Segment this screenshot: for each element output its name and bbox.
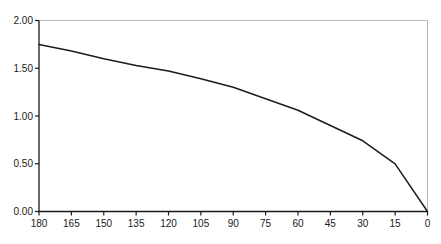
x-tick-label: 60	[292, 218, 304, 229]
x-tick-label: 45	[325, 218, 337, 229]
x-tick-label: 120	[160, 218, 177, 229]
line-chart: 0.000.501.001.502.0018016515013512010590…	[0, 0, 441, 244]
x-tick-label: 30	[357, 218, 369, 229]
x-tick-label: 15	[390, 218, 402, 229]
x-tick-label: 90	[228, 218, 240, 229]
series-line	[39, 44, 428, 211]
y-tick-label: 1.50	[14, 63, 34, 74]
y-tick-label: 0.00	[14, 206, 34, 217]
y-tick-label: 1.00	[14, 111, 34, 122]
x-tick-label: 135	[128, 218, 145, 229]
y-tick-label: 2.00	[14, 15, 34, 26]
x-tick-label: 0	[425, 218, 431, 229]
x-tick-label: 75	[260, 218, 272, 229]
x-tick-label: 105	[193, 218, 210, 229]
x-tick-label: 150	[95, 218, 112, 229]
y-tick-label: 0.50	[14, 158, 34, 169]
x-tick-label: 180	[31, 218, 48, 229]
x-tick-label: 165	[63, 218, 80, 229]
line-chart-container: 0.000.501.001.502.0018016515013512010590…	[0, 0, 441, 244]
